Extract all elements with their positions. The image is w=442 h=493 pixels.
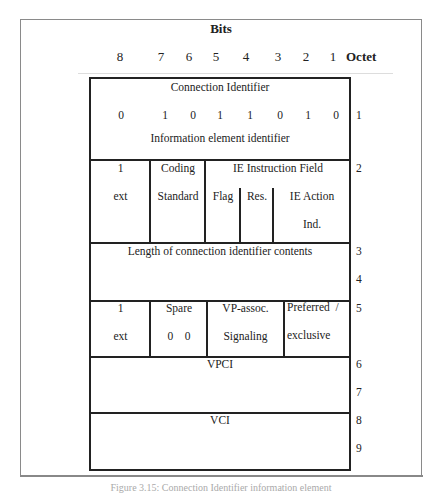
information-element-identifier: Information element identifier [90, 132, 350, 144]
spare-bits: 0 0 [151, 330, 207, 342]
octet-number-9: 9 [356, 442, 362, 454]
header-rule [78, 73, 393, 74]
vp-assoc-line1: VP-assoc. [208, 302, 283, 314]
octet2-ext-bit: 1 [91, 162, 150, 174]
vpci-field: VPCI [90, 358, 350, 370]
bit-number-2: 2 [296, 49, 316, 65]
ie-id-bit-5: 1 [210, 109, 230, 121]
bit-number-8: 8 [110, 49, 130, 65]
octet-number-4: 4 [356, 273, 362, 285]
connection-identifier-title: Connection Identifier [90, 81, 350, 93]
octet-number-5: 5 [356, 302, 362, 314]
col-divider [283, 301, 285, 357]
bits-title: Bits [0, 21, 442, 37]
spare-label: Spare [151, 302, 207, 314]
preferred-exclusive-line2: exclusive [287, 329, 349, 341]
octet-number-7: 7 [356, 386, 362, 398]
figure-caption: Figure 3.15: Connection Identifier infor… [0, 482, 442, 493]
octet-number-8: 8 [356, 414, 362, 426]
row-divider [90, 159, 350, 161]
bit-number-5: 5 [206, 49, 226, 65]
ie-id-bit-7: 1 [155, 109, 175, 121]
octet5-ext-bit: 1 [91, 302, 150, 314]
octet2-ext-label: ext [91, 190, 150, 202]
vp-assoc-line2: Signaling [208, 330, 283, 342]
ie-id-bit-1: 0 [326, 109, 346, 121]
bit-number-4: 4 [236, 49, 256, 65]
octet-number-6: 6 [356, 358, 362, 370]
frame-bottom-rule [20, 475, 423, 477]
octet-number-3: 3 [356, 245, 362, 257]
bit-number-3: 3 [268, 49, 288, 65]
octet-number-2: 2 [356, 162, 362, 174]
ie-action-line2: Ind. [274, 218, 350, 230]
flag-field: Flag [206, 190, 240, 202]
ie-id-bit-6: 0 [183, 109, 203, 121]
reserved-field: Res. [241, 190, 273, 202]
ie-instruction-field: IE Instruction Field [206, 162, 350, 174]
preferred-exclusive-line1: Preferred / [287, 301, 349, 313]
coding-standard-line1: Coding [151, 162, 205, 174]
ie-id-bit-3: 0 [270, 109, 290, 121]
bit-number-6: 6 [179, 49, 199, 65]
ie-action-line1: IE Action [274, 190, 350, 202]
bit-number-1: 1 [323, 49, 343, 65]
octet-header: Octet [346, 49, 376, 65]
ie-id-bit-8: 0 [111, 109, 131, 121]
ie-id-bit-2: 1 [298, 109, 318, 121]
vci-field: VCI [90, 414, 350, 426]
row-divider [90, 242, 350, 244]
octet-number-1: 1 [356, 109, 362, 121]
ie-id-bit-4: 1 [240, 109, 260, 121]
length-contents: Length of connection identifier contents [90, 245, 350, 257]
bit-number-7: 7 [151, 49, 171, 65]
octet5-ext-label: ext [91, 330, 150, 342]
coding-standard-line2: Standard [151, 190, 205, 202]
